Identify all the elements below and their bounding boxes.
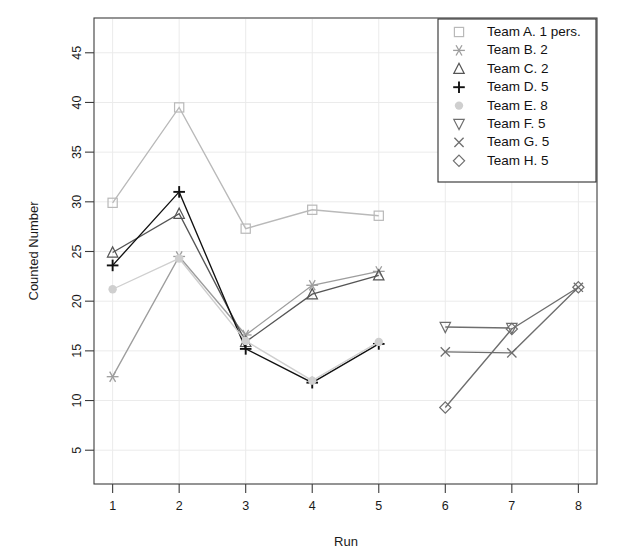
marker-dot [375,338,383,346]
x-tick-label: 6 [442,499,449,513]
y-tick-label: 15 [70,344,84,358]
y-tick-label: 35 [70,145,84,159]
chart-root: 12345678 51015202530354045 Run Counted N… [0,0,618,554]
y-tick-label: 20 [70,294,84,308]
marker-dot [175,254,183,262]
y-tick-label: 30 [70,195,84,209]
dot-icon [455,101,463,109]
y-tick-label: 45 [70,46,84,60]
chart-legend: Team A. 1 pers.Team B. 2Team C. 2Team D.… [438,19,596,182]
legend-item-label: Team B. 2 [487,42,548,57]
y-tick-label: 5 [70,447,84,454]
legend-item-label: Team C. 2 [487,61,549,76]
x-tick-label: 7 [508,499,515,513]
y-tick-label: 40 [70,95,84,109]
legend-item-label: Team E. 8 [487,98,548,113]
x-axis-ticks: 12345678 [109,484,582,513]
y-axis-ticks: 51015202530354045 [70,46,94,454]
line-chart: 12345678 51015202530354045 Run Counted N… [0,0,618,554]
legend-item-label: Team F. 5 [487,116,546,131]
legend-item-label: Team H. 5 [487,153,549,168]
x-tick-label: 8 [575,499,582,513]
legend-item-label: Team D. 5 [487,79,549,94]
x-axis-title: Run [334,534,358,549]
x-tick-label: 4 [309,499,316,513]
series-team-f-5 [440,322,517,333]
marker-dot [241,337,249,345]
x-tick-label: 1 [109,499,116,513]
marker-dot [108,285,116,293]
y-tick-label: 25 [70,244,84,258]
y-tick-label: 10 [70,394,84,408]
y-axis-title: Counted Number [26,201,41,301]
series-line [445,327,512,328]
x-tick-label: 3 [242,499,249,513]
legend-item-label: Team A. 1 pers. [487,24,581,39]
marker-dot [308,376,316,384]
x-tick-label: 2 [176,499,183,513]
legend-item-label: Team G. 5 [487,134,549,149]
x-tick-label: 5 [375,499,382,513]
